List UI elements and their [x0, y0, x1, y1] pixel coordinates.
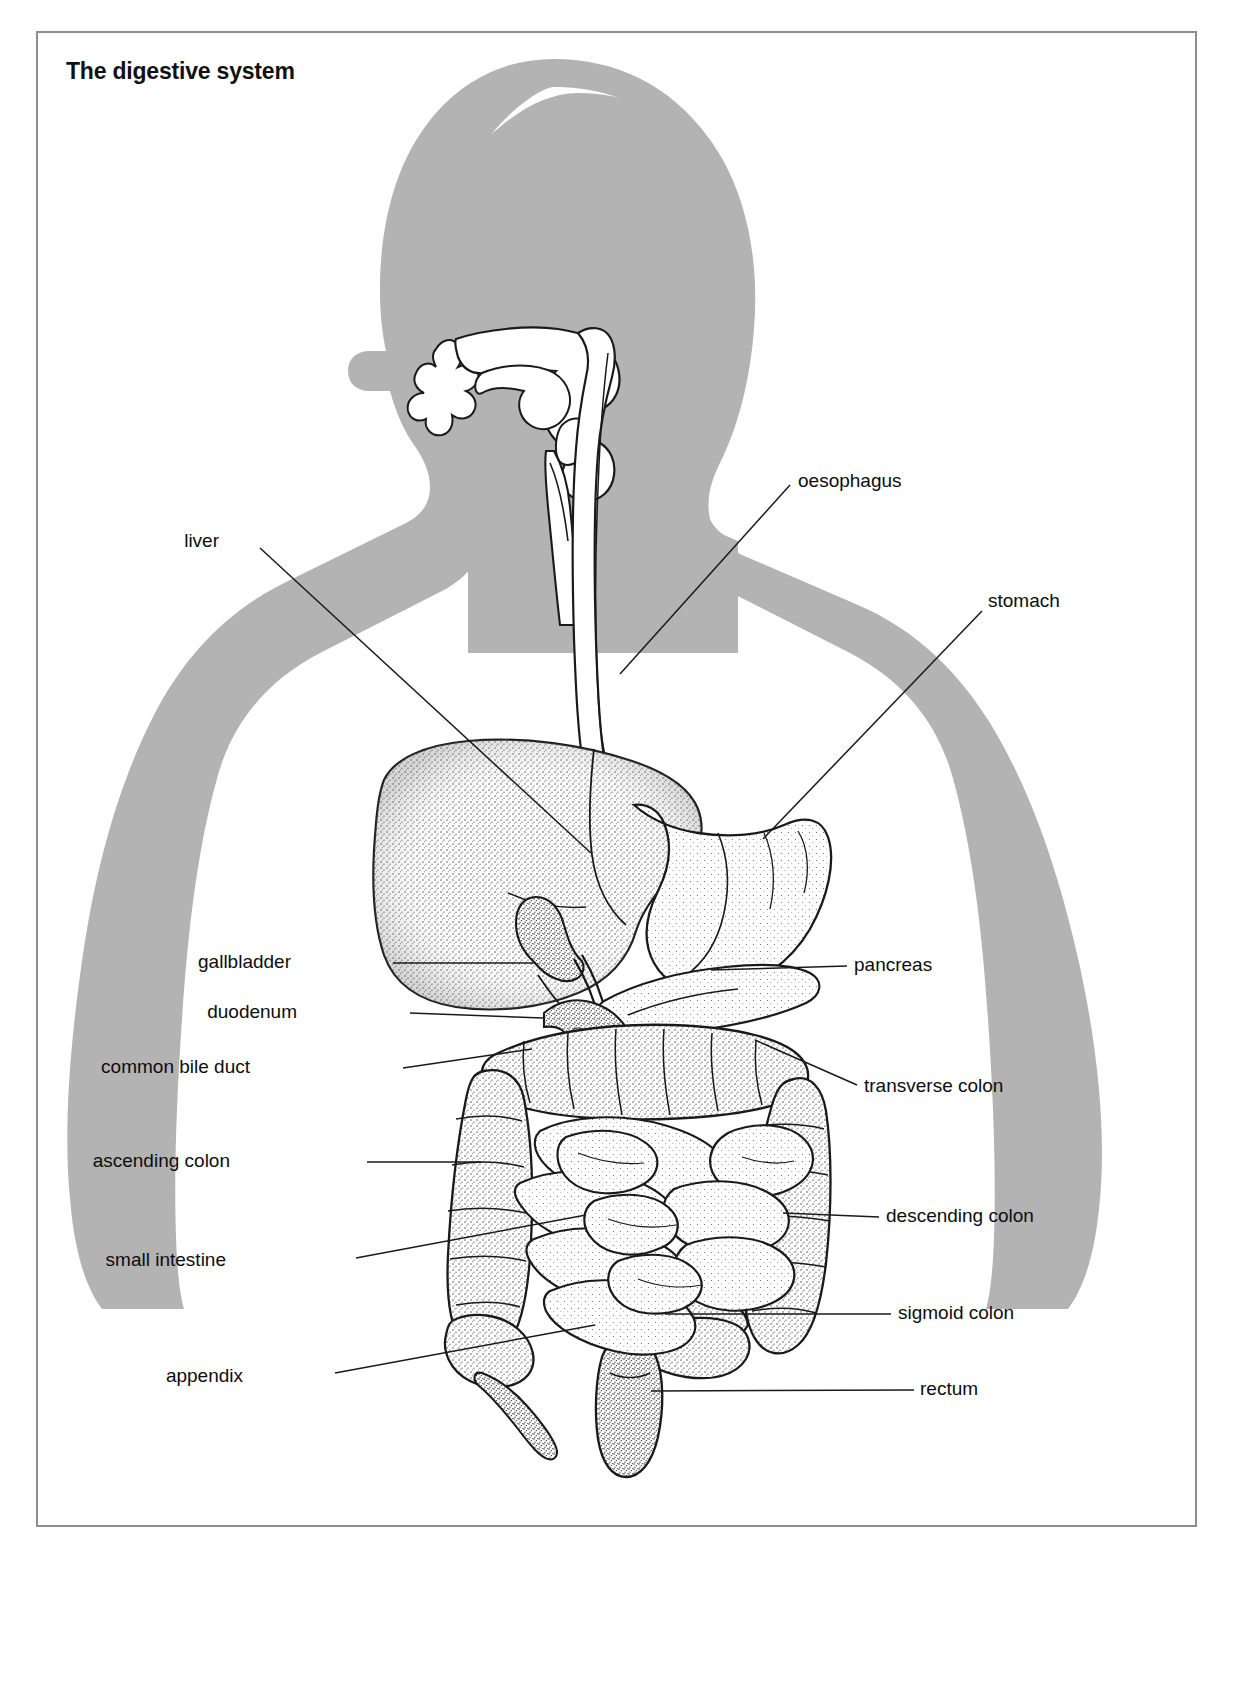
digestive-system-illustration [38, 33, 1195, 1525]
label-rectum: rectum [920, 1379, 978, 1398]
label-ascending-colon: ascending colon [93, 1151, 230, 1170]
label-appendix: appendix [166, 1366, 243, 1385]
label-common-bile-duct: common bile duct [101, 1057, 250, 1076]
leader-line-rectum [651, 1390, 914, 1391]
label-duodenum: duodenum [207, 1002, 297, 1021]
label-gallbladder: gallbladder [198, 952, 291, 971]
label-transverse-colon: transverse colon [864, 1076, 1003, 1095]
label-small-intestine: small intestine [106, 1250, 226, 1269]
label-descending-colon: descending colon [886, 1206, 1034, 1225]
label-liver: liver [184, 531, 219, 550]
diagram-page: The digestive system [0, 0, 1234, 1682]
rectum-organ [596, 1340, 662, 1477]
label-stomach: stomach [988, 591, 1060, 610]
label-oesophagus: oesophagus [798, 471, 902, 490]
label-pancreas: pancreas [854, 955, 932, 974]
label-sigmoid-colon: sigmoid colon [898, 1303, 1014, 1322]
